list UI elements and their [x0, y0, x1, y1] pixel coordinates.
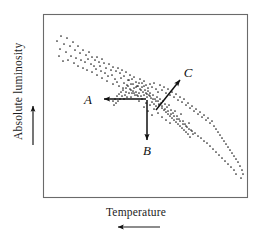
star-dot [235, 173, 237, 175]
star-dot [70, 55, 72, 57]
star-dot [180, 113, 182, 115]
star-dot [87, 58, 89, 60]
star-dot [179, 96, 181, 98]
star-dot [113, 104, 115, 106]
star-dot [138, 82, 140, 84]
star-dot [75, 57, 77, 59]
star-dot [157, 112, 159, 114]
star-dot [110, 69, 112, 71]
star-dot [149, 83, 151, 85]
star-dot [209, 145, 211, 147]
star-dot [143, 94, 145, 96]
star-dot [98, 61, 100, 63]
star-dot [161, 116, 163, 118]
star-dot [186, 126, 188, 128]
star-dot [152, 98, 154, 100]
star-dot [168, 104, 170, 106]
star-dot [237, 161, 239, 163]
star-dot [176, 115, 178, 117]
star-dot [121, 69, 123, 71]
star-dot [219, 134, 221, 136]
star-dot [178, 118, 180, 120]
star-dot [120, 77, 122, 79]
star-dot [86, 69, 88, 71]
star-dot [161, 89, 163, 91]
star-dot [121, 95, 123, 97]
star-dot [94, 59, 96, 61]
star-dot [182, 120, 184, 122]
star-dot [211, 120, 213, 122]
star-dot [125, 87, 127, 89]
star-dot [206, 142, 208, 144]
star-dot [134, 94, 136, 96]
star-dot [133, 76, 135, 78]
star-dot [59, 48, 61, 50]
star-dot [105, 67, 107, 69]
star-dot [169, 122, 171, 124]
star-dot [233, 155, 235, 157]
star-dot [106, 80, 108, 82]
star-dot [62, 60, 64, 62]
star-dot [96, 56, 98, 58]
star-dot [170, 113, 172, 115]
star-dot [67, 59, 69, 61]
star-dot [144, 89, 146, 91]
star-dot [182, 123, 184, 125]
star-dot [120, 91, 122, 93]
star-dot [164, 103, 166, 105]
star-dot [103, 62, 105, 64]
star-dot [138, 100, 140, 102]
star-dot [150, 97, 152, 99]
star-dot [218, 154, 220, 156]
star-dot [163, 86, 165, 88]
star-dot [93, 65, 95, 67]
star-dot [221, 157, 223, 159]
star-dot [114, 78, 116, 80]
star-dot [88, 51, 90, 53]
star-dot [151, 86, 153, 88]
star-dot [221, 137, 223, 139]
star-dot [147, 87, 149, 89]
star-dot [197, 113, 199, 115]
star-dot [143, 80, 145, 82]
star-dot [80, 59, 82, 61]
star-dot [112, 100, 114, 102]
star-dot [56, 40, 58, 42]
star-dot [117, 100, 119, 102]
star-dot [151, 101, 153, 103]
star-dot [65, 51, 67, 53]
star-dot [154, 98, 156, 100]
annotation-label-c: C [184, 65, 193, 80]
star-dot [99, 65, 101, 67]
star-dot [151, 114, 153, 116]
star-dot [159, 98, 161, 100]
star-dot [167, 113, 169, 115]
star-dot [140, 95, 142, 97]
star-dot [148, 94, 150, 96]
star-dot [82, 49, 84, 51]
star-dot [122, 89, 124, 91]
star-dot [174, 110, 176, 112]
star-dot [179, 125, 181, 127]
star-dot [149, 92, 151, 94]
star-dot [135, 91, 137, 93]
star-dot [173, 119, 175, 121]
star-dot [155, 100, 157, 102]
star-dot [153, 103, 155, 105]
star-dot [185, 131, 187, 133]
star-dot [77, 65, 79, 67]
star-dot [85, 54, 87, 56]
star-dot [161, 107, 163, 109]
star-dot [215, 128, 217, 130]
star-dot [201, 116, 203, 118]
star-dot [108, 63, 110, 65]
star-dot [153, 82, 155, 84]
star-dot [101, 58, 103, 60]
star-dot [69, 45, 71, 47]
star-dot [194, 132, 196, 134]
star-dot [90, 63, 92, 65]
star-dot [183, 129, 185, 131]
star-dot [63, 43, 65, 45]
hr-diagram-figure: A B C Absolute luminosity Temperature [0, 0, 261, 237]
star-dot [217, 131, 219, 133]
